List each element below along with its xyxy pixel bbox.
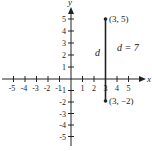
y-tick-label: -3 <box>59 110 66 119</box>
point-bottom-label: (3, −2) <box>109 96 134 106</box>
point-top-label: (3, 5) <box>109 14 129 24</box>
x-tick-label: 1 <box>81 84 85 93</box>
x-tick-label: -4 <box>21 84 28 93</box>
x-tick-label: 2 <box>92 84 96 93</box>
x-tick-label: -5 <box>9 84 16 93</box>
x-axis: x -5 -4 -3 -2 -1 1 2 3 4 5 <box>2 74 151 93</box>
y-tick-label: -4 <box>59 121 66 130</box>
x-tick-label: 5 <box>127 84 131 93</box>
x-tick-labels: -5 -4 -3 -2 -1 1 2 3 4 5 <box>9 84 131 93</box>
y-tick-label: -5 <box>59 133 66 142</box>
point-top <box>104 17 108 21</box>
y-axis-arrow-icon <box>68 7 74 14</box>
y-axis: y 5 4 3 2 1 -1 -2 -3 -4 -5 <box>59 0 74 146</box>
y-tick-label: 5 <box>62 15 66 24</box>
y-tick-labels: 5 4 3 2 1 -1 -2 -3 -4 -5 <box>59 15 66 142</box>
x-tick-label: -2 <box>44 84 51 93</box>
x-tick-label: -3 <box>32 84 39 93</box>
x-axis-arrow-icon <box>139 76 146 82</box>
x-tick-label: 4 <box>115 84 119 93</box>
point-bottom <box>104 99 108 103</box>
y-tick-label: -1 <box>59 86 66 95</box>
y-tick-label: 3 <box>62 39 66 48</box>
y-axis-label: y <box>67 0 72 7</box>
y-tick-label: -2 <box>59 98 66 107</box>
x-axis-label: x <box>146 74 151 84</box>
distance-label: d = 7 <box>117 42 140 53</box>
y-tick-label: 1 <box>62 63 66 72</box>
y-tick-label: 4 <box>62 27 66 36</box>
y-tick-label: 2 <box>62 51 66 60</box>
segment-label: d <box>95 47 101 58</box>
coordinate-plane: x -5 -4 -3 -2 -1 1 2 3 4 5 y <box>0 0 152 151</box>
